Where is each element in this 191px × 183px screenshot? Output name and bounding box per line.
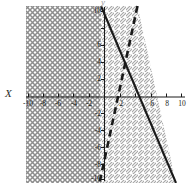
x-tick-label: -6	[55, 100, 61, 108]
x-tick-label: 8	[165, 100, 169, 108]
coordinate-plane-svg	[0, 0, 191, 183]
graph-figure: X y -10 -8 -6 -4 -2 2 6 8 10 10 6 4 2 -2…	[0, 0, 191, 183]
x-tick-label: -4	[71, 100, 77, 108]
y-tick-label: -6	[90, 144, 101, 152]
y-axis-name-label: y	[101, 0, 105, 7]
y-tick-label: 6	[93, 41, 101, 49]
x-axis-name-label: X	[5, 88, 12, 99]
x-tick-label: 2	[119, 100, 123, 108]
x-tick-label: 6	[150, 100, 154, 108]
x-tick-label: -10	[23, 100, 33, 108]
y-tick-label: -10	[86, 175, 101, 183]
y-tick-label: 10	[93, 7, 101, 15]
y-tick-label: 2	[93, 75, 101, 83]
y-tick-label: -8	[90, 161, 101, 169]
x-tick-label: 10	[178, 100, 186, 108]
x-tick-label: -8	[40, 100, 46, 108]
y-tick-label: 4	[93, 58, 101, 66]
x-tick-label: -2	[86, 100, 92, 108]
y-tick-label: -4	[90, 127, 101, 135]
y-tick-label: -2	[90, 110, 101, 118]
